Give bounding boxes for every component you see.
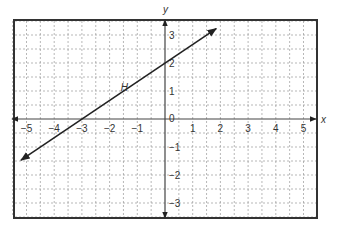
origin-label: 0 (169, 113, 175, 124)
coordinate-plane: xy −5−4−3−2−112345321−1−2−30 H (0, 0, 338, 229)
y-tick-label: 3 (169, 30, 175, 41)
x-tick-label: −3 (76, 123, 88, 134)
x-tick-label: 4 (273, 123, 279, 134)
y-tick-label: 1 (169, 86, 175, 97)
x-tick-label: 3 (245, 123, 251, 134)
x-axis-label: x (320, 114, 327, 125)
x-tick-label: −2 (104, 123, 116, 134)
x-tick-label: 1 (190, 123, 196, 134)
line-h (21, 29, 216, 161)
y-tick-label: −1 (169, 142, 181, 153)
y-axis-label: y (162, 4, 169, 15)
x-tick-label: −1 (132, 123, 144, 134)
line-series: H (21, 29, 216, 161)
x-tick-label: 2 (218, 123, 224, 134)
x-tick-label: −4 (48, 123, 60, 134)
line-h-label: H (121, 82, 129, 93)
x-tick-label: −5 (21, 123, 33, 134)
x-tick-label: 5 (301, 123, 307, 134)
y-tick-label: −2 (169, 170, 181, 181)
y-tick-label: −3 (169, 198, 181, 209)
